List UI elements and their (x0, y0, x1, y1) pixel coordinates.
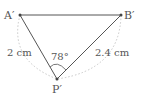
angle-arc-p (50, 64, 66, 70)
vertex-p (56, 78, 59, 81)
length-pa: 2 cm (7, 47, 32, 58)
label-p: P′ (52, 83, 62, 96)
angle-p-value: 78° (51, 51, 69, 62)
length-pb: 2.4 cm (95, 47, 130, 58)
vertex-b (120, 14, 123, 17)
vertex-a (19, 14, 22, 17)
label-b: B′ (124, 9, 135, 22)
triangle-diagram: A′ B′ P′ 2 cm 2.4 cm 78° (0, 0, 144, 97)
label-a: A′ (3, 9, 15, 22)
